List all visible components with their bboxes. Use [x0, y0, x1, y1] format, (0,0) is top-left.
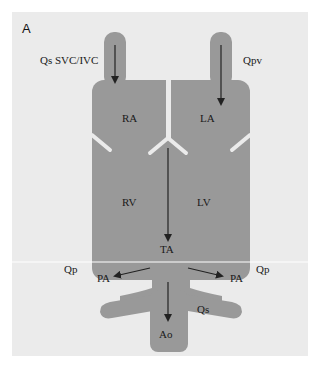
label-rv: RV [122, 196, 136, 208]
aorta-vessel [150, 290, 188, 352]
label-ta: TA [160, 243, 174, 255]
label-ra: RA [122, 112, 137, 124]
label-la: LA [200, 112, 215, 124]
label-ao: Ao [159, 328, 173, 340]
heart-flow-diagram: A Qs SVC/IVC Qpv RA LA RV LV TA Qp Qp PA… [0, 0, 318, 367]
label-pa-right: PA [230, 272, 243, 284]
atrial-septum [166, 78, 171, 140]
label-qpv: Qpv [243, 54, 262, 66]
label-qp-right: Qp [256, 263, 270, 275]
label-lv: LV [197, 196, 211, 208]
label-qs: Qs [197, 303, 209, 315]
label-svc-ivc: Qs SVC/IVC [40, 54, 98, 66]
label-pa-left: PA [97, 272, 110, 284]
label-qp-left: Qp [64, 263, 78, 275]
panel-letter: A [22, 21, 31, 36]
